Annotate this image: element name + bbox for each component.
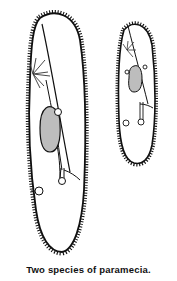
macronucleus — [129, 66, 142, 92]
small-paramecium — [119, 24, 155, 163]
micronucleus — [55, 109, 62, 116]
food-vacuole — [59, 178, 66, 185]
paramecia-illustration — [0, 0, 177, 262]
figure-caption: Two species of paramecia. — [0, 264, 177, 275]
large-paramecium — [29, 13, 85, 252]
posterior-vacuole — [35, 187, 43, 195]
